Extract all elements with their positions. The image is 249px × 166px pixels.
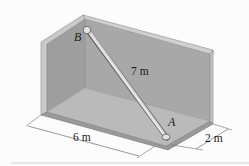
point-label-A: A	[168, 116, 175, 128]
bottom-divider	[11, 162, 249, 164]
extension-line-2m-top	[213, 124, 232, 130]
extension-line-6m-left	[26, 115, 41, 126]
extension-line-6m-right	[137, 146, 155, 158]
rod-length-label: 7 m	[131, 66, 149, 78]
ball-joint-A	[162, 134, 170, 140]
statics-diagram: B A 7 m 6 m 2 m	[0, 0, 249, 166]
point-label-B: B	[74, 31, 81, 43]
floor-width-label: 2 m	[205, 133, 223, 145]
floor-length-label: 6 m	[73, 132, 91, 144]
ball-joint-B	[83, 26, 91, 34]
back-wall-right-edge	[210, 50, 213, 124]
